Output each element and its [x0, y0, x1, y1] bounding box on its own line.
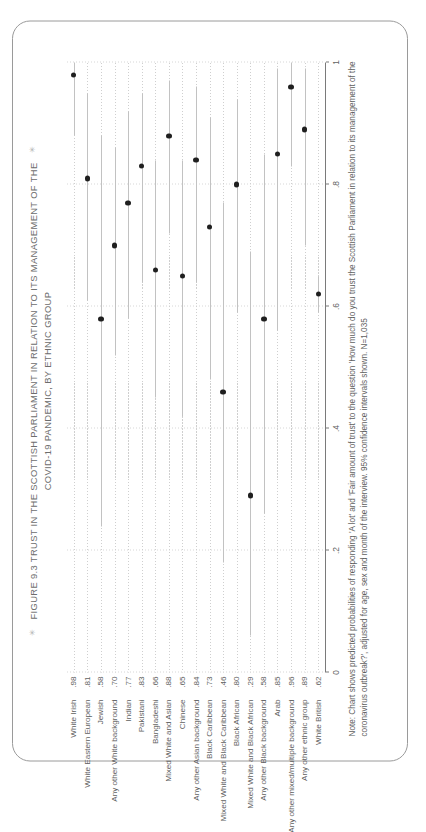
x-tick: [326, 183, 329, 184]
category-label: Bangladeshi.66: [149, 676, 162, 744]
data-point: [316, 291, 321, 296]
x-tick: [326, 549, 329, 550]
category-value: .70: [108, 676, 121, 692]
data-point: [166, 133, 171, 138]
confidence-interval: [115, 147, 116, 354]
category-name: Any other mixed/multiple background: [287, 699, 296, 832]
category-name: Any other Asian background: [192, 699, 201, 800]
x-tick: [326, 427, 329, 428]
category-value: .88: [162, 676, 175, 692]
confidence-interval: [87, 93, 88, 300]
confidence-interval: [277, 68, 278, 330]
confidence-interval: [196, 86, 197, 281]
category-name: Black Caribbean: [205, 699, 214, 758]
category-value: .29: [244, 676, 257, 692]
data-point: [139, 163, 144, 168]
plot-panel: [67, 62, 325, 672]
x-tick: [326, 61, 329, 62]
confidence-interval: [101, 135, 102, 525]
x-tick: [326, 305, 329, 306]
category-value: .66: [149, 676, 162, 692]
figure-note: Note: Chart shows predicted probabilitie…: [347, 45, 371, 736]
x-tick-label: .4: [331, 425, 341, 432]
category-label: Any other Black background.58: [257, 676, 270, 800]
category-name: Pakistani: [137, 699, 146, 732]
category-name: Arab: [273, 699, 282, 716]
data-point: [180, 273, 185, 278]
confidence-interval: [305, 68, 306, 245]
confidence-interval: [291, 62, 292, 166]
data-point: [112, 242, 117, 247]
category-value: .81: [81, 676, 94, 692]
category-label: Any other ethnic group.89: [298, 676, 311, 780]
x-tick-label: .2: [331, 547, 341, 554]
category-name: Any other Black background: [259, 699, 268, 800]
category-value: .73: [203, 676, 216, 692]
category-label: Pakistani.83: [135, 676, 148, 732]
category-name: Jewish: [96, 699, 105, 724]
category-label: Jewish.58: [94, 676, 107, 724]
category-label: Chinese.65: [176, 676, 189, 729]
category-label: Mixed White and Black Caribbean.46: [217, 676, 230, 821]
x-tick-label: .6: [331, 303, 341, 310]
category-label: Mixed White and Black African.29: [244, 676, 257, 808]
data-point: [153, 267, 158, 272]
category-value: .46: [217, 676, 230, 692]
category-value: .85: [271, 676, 284, 692]
data-point: [125, 200, 130, 205]
data-point: [288, 84, 293, 89]
category-label: Mixed White and Asian.88: [162, 676, 175, 781]
category-name: Indian: [124, 699, 133, 721]
figure-title-row: ✳ FIGURE 9.3 TRUST IN THE SCOTTISH PARLI…: [27, 21, 54, 760]
row-gridline: [318, 62, 319, 672]
confidence-interval: [210, 117, 211, 379]
category-name: Black African: [232, 699, 241, 746]
data-point: [71, 72, 76, 77]
category-label: Black African.80: [230, 676, 243, 746]
confidence-interval: [169, 80, 170, 233]
confidence-interval: [237, 99, 238, 313]
dot-plot: White Irish.98White Eastern European.81J…: [67, 62, 325, 672]
category-value: .84: [190, 676, 203, 692]
confidence-interval: [223, 202, 224, 562]
figure-title-line-1: FIGURE 9.3 TRUST IN THE SCOTTISH PARLIAM…: [27, 162, 41, 619]
confidence-interval: [250, 251, 251, 635]
category-value: .65: [176, 676, 189, 692]
category-value: .77: [122, 676, 135, 692]
x-tick: [326, 671, 329, 672]
category-label: White Eastern European.81: [81, 676, 94, 787]
figure-title-line-2: COVID-19 PANDEMIC, BY ETHNIC GROUP: [41, 162, 55, 619]
category-label: Any other mixed/multiple background.96: [285, 676, 298, 832]
category-label: White Irish.98: [67, 676, 80, 737]
category-value: .89: [298, 676, 311, 692]
category-value: .83: [135, 676, 148, 692]
category-name: Mixed White and Black Caribbean: [219, 699, 228, 821]
category-value: .80: [230, 676, 243, 692]
x-tick-label: 1: [331, 60, 341, 65]
confidence-interval: [142, 93, 143, 282]
category-name: Any other ethnic group: [300, 699, 309, 780]
category-label: Black Caribbean.73: [203, 676, 216, 758]
data-point: [234, 181, 239, 186]
x-tick-label: 0: [331, 670, 341, 675]
category-name: Chinese: [178, 699, 187, 729]
page-title: FIGURE 9.3 TRUST IN THE SCOTTISH PARLIAM…: [27, 162, 54, 619]
category-label: Any other White background.70: [108, 676, 121, 801]
data-point: [302, 126, 307, 131]
data-point: [207, 224, 212, 229]
decorative-asterisk-right: ✳: [29, 146, 37, 153]
data-point: [85, 175, 90, 180]
data-point: [248, 492, 253, 497]
confidence-interval: [182, 160, 183, 416]
category-name: White British: [314, 699, 323, 744]
confidence-interval: [264, 154, 265, 514]
category-label: Indian.77: [122, 676, 135, 721]
data-point: [220, 389, 225, 394]
category-axis: White Irish.98White Eastern European.81J…: [67, 676, 325, 758]
category-value: .98: [67, 676, 80, 692]
category-label: Arab.85: [271, 676, 284, 716]
category-value: .58: [257, 676, 270, 692]
confidence-interval: [155, 160, 156, 398]
category-name: White Irish: [69, 699, 78, 737]
